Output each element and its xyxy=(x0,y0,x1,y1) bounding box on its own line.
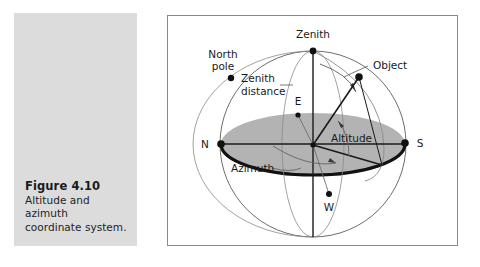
caption-line-2: coordinate system. xyxy=(25,221,131,235)
celestial-sphere-diagram: Zenith North pole Zenith distance Object… xyxy=(168,16,457,245)
south-point xyxy=(401,139,409,147)
label-north-pole-line1: North xyxy=(208,48,237,60)
caption-line-1: Altitude and azimuth xyxy=(25,194,131,221)
label-north-pole-line2: pole xyxy=(212,60,234,72)
west-point xyxy=(326,191,332,197)
label-zenith: Zenith xyxy=(296,28,330,40)
label-north: N xyxy=(201,138,209,150)
label-west: W xyxy=(324,201,335,213)
east-point xyxy=(295,112,300,117)
zenith-point xyxy=(310,48,317,55)
label-object: Object xyxy=(373,59,407,71)
label-east: E xyxy=(295,95,302,107)
figure-number: Figure 4.10 xyxy=(25,179,131,193)
label-altitude: Altitude xyxy=(331,132,372,144)
caption-text-wrap: Figure 4.10 Altitude and azimuth coordin… xyxy=(25,179,131,235)
object-point xyxy=(355,73,363,81)
label-azimuth: Azimuth xyxy=(231,162,274,174)
label-zenith-distance-line2: distance xyxy=(241,85,286,97)
observer-center-point xyxy=(310,142,315,147)
north-pole-point xyxy=(228,75,234,81)
figure-panel: Zenith North pole Zenith distance Object… xyxy=(167,15,458,246)
figure-caption-block: Figure 4.10 Altitude and azimuth coordin… xyxy=(14,13,137,246)
label-zenith-distance-line1: Zenith xyxy=(241,72,275,84)
label-south: S xyxy=(417,137,424,149)
north-point xyxy=(217,140,225,148)
